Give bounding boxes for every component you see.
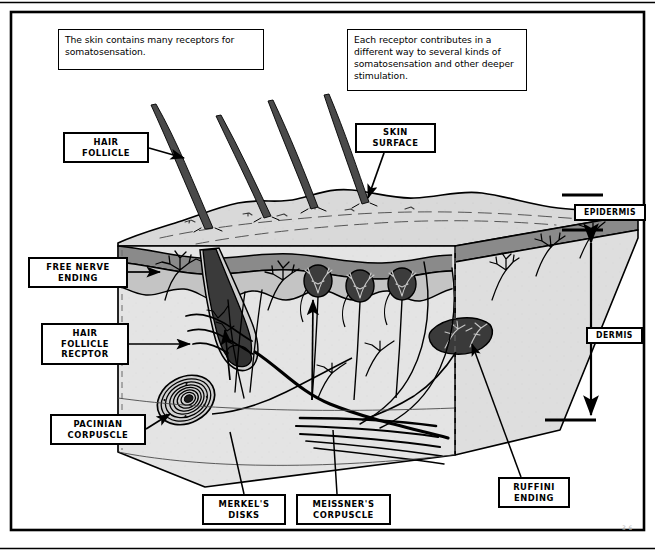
label-merkels-disks: MERKEL'S DISKS (202, 494, 286, 525)
caption-skin-text: The skin contains many receptors for som… (65, 34, 258, 58)
label-hair-follicle: HAIR FOLLICLE (63, 132, 149, 163)
figure-corner-mark: 3-6 (622, 524, 632, 531)
hair-shaft-3 (268, 100, 318, 209)
caption-receptor-text: Each receptor contributes in a different… (354, 34, 521, 82)
skin-block (118, 190, 638, 487)
label-dermis: DERMIS (586, 327, 643, 344)
label-free-nerve-ending: FREE NERVE ENDING (28, 257, 128, 288)
hair-shaft-1 (151, 104, 213, 229)
label-skin-surface: SKIN SURFACE (355, 123, 436, 153)
pointer-meissner-up (312, 300, 313, 400)
label-pacinian-corpuscle: PACINIAN CORPUSCLE (50, 414, 146, 445)
label-ruffini-ending: RUFFINI ENDING (498, 477, 570, 508)
caption-skin-contains: The skin contains many receptors for som… (58, 29, 264, 70)
caption-each-receptor: Each receptor contributes in a different… (347, 29, 527, 91)
leader-skin-surface (368, 153, 384, 198)
label-meissners-corpuscle: MEISSNER'S CORPUSCLE (296, 494, 391, 525)
label-epidermis: EPIDERMIS (574, 204, 646, 221)
label-hair-follicle-receptor: HAIR FOLLICLE RECPTOR (41, 323, 129, 365)
